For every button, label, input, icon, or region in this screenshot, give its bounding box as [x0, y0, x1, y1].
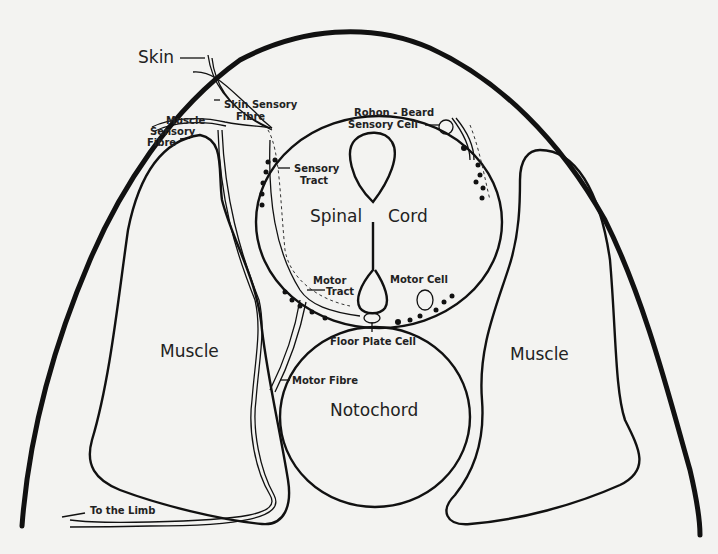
- label-sensory-tract: Sensory: [294, 163, 340, 174]
- label-skin-sensory-fibre: Skin Sensory: [224, 99, 298, 110]
- label-muscle-left: Muscle: [160, 341, 219, 361]
- label-skin: Skin: [138, 47, 174, 67]
- label-muscle-right: Muscle: [510, 344, 569, 364]
- label-sensory-tract-2: Tract: [300, 175, 328, 186]
- label-rohon-beard: Rohon - Beard: [354, 107, 434, 118]
- spinal-cord-cross-section-diagram: Skin Skin Sensory Fibre Muscle Sensory F…: [0, 0, 718, 554]
- label-motor-cell: Motor Cell: [390, 274, 448, 285]
- label-motor-fibre: Motor Fibre: [292, 375, 358, 386]
- label-motor-tract-2: Tract: [326, 286, 354, 297]
- label-muscle-sensory-fibre-3: Fibre: [147, 137, 176, 148]
- label-motor-tract: Motor: [313, 275, 346, 286]
- label-spinal: Spinal: [310, 206, 362, 226]
- motor-cell: [417, 290, 433, 310]
- floor-plate-cell: [364, 313, 380, 323]
- muscle-right-outline: [447, 150, 640, 524]
- muscle-left-outline: [90, 135, 289, 524]
- label-muscle-sensory-fibre-2: Sensory: [150, 126, 196, 137]
- label-skin-sensory-fibre-2: Fibre: [236, 111, 265, 122]
- label-cord: Cord: [388, 206, 428, 226]
- diagram-svg: Skin Skin Sensory Fibre Muscle Sensory F…: [0, 0, 718, 554]
- label-notochord: Notochord: [330, 400, 418, 420]
- label-to-the-limb: To the Limb: [90, 505, 155, 516]
- nerve-fibres: [70, 55, 490, 527]
- label-rohon-beard-2: Sensory Cell: [348, 119, 418, 130]
- label-muscle-sensory-fibre: Muscle: [166, 115, 205, 126]
- label-floor-plate-cell: Floor Plate Cell: [330, 336, 416, 347]
